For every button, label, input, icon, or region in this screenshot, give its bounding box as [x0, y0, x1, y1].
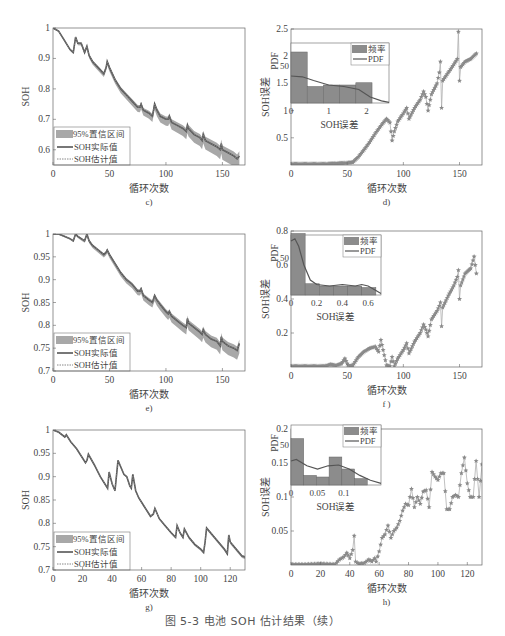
y-tick-label: 1 [283, 106, 288, 116]
y-tick-label: 0.5 [276, 133, 288, 143]
y-tick-label: 0.1 [276, 492, 288, 502]
histogram-bar [304, 475, 317, 485]
chart-panel-d: 0501001500.511.522.5循环次数SOH误差d)01250SOH误… [259, 24, 482, 207]
y-tick-label: 0.4 [276, 294, 288, 304]
svg-text:频率: 频率 [360, 236, 378, 246]
svg-text:95%置信区间: 95%置信区间 [73, 335, 125, 345]
y-tick-label: 0.95 [33, 252, 50, 262]
histogram-bar [323, 85, 339, 103]
svg-text:0: 0 [289, 106, 294, 116]
x-tick-label: 100 [431, 569, 446, 579]
svg-text:SOH误差: SOH误差 [316, 311, 355, 322]
y-axis-label: SOH误差 [259, 77, 271, 117]
svg-text:SOH实际值: SOH实际值 [74, 348, 118, 358]
y-axis-label: SOH [20, 292, 31, 312]
y-tick-label: 0.8 [276, 226, 288, 236]
y-tick-label: 0.05 [271, 526, 288, 536]
panel-label: c) [146, 197, 153, 207]
y-tick-label: 0.75 [33, 542, 50, 552]
x-tick-label: 0 [289, 371, 294, 381]
x-tick-label: 40 [345, 569, 355, 579]
svg-text:50: 50 [280, 440, 290, 450]
svg-text:0: 0 [289, 298, 294, 308]
svg-text:频率: 频率 [360, 426, 378, 436]
svg-text:SOH实际值: SOH实际值 [74, 547, 118, 557]
histogram-bar [291, 234, 305, 296]
x-tick-label: 80 [166, 574, 176, 584]
x-tick-label: 150 [452, 169, 467, 179]
x-tick-label: 60 [374, 569, 384, 579]
x-tick-label: 50 [342, 371, 352, 381]
svg-text:PDF: PDF [360, 436, 376, 446]
chart-panel-h: 0204060801001200.050.10.150.2循环次数SOH误差h)… [259, 424, 485, 607]
svg-text:50: 50 [280, 61, 290, 71]
svg-text:95%置信区间: 95%置信区间 [73, 534, 125, 544]
histogram-bar [355, 479, 368, 485]
svg-text:2: 2 [364, 106, 369, 116]
x-tick-label: 0 [51, 375, 56, 385]
x-axis-label: 循环次数 [367, 582, 407, 594]
y-tick-label: 0.85 [33, 495, 50, 505]
legend: 95%置信区间SOH实际值SOH估计值 [54, 532, 130, 570]
legend: 95%置信区间SOH实际值SOH估计值 [54, 127, 130, 165]
x-tick-label: 100 [194, 574, 209, 584]
x-tick-label: 0 [51, 169, 56, 179]
panel-label: g) [145, 602, 153, 612]
x-tick-label: 150 [452, 371, 467, 381]
svg-text:PDF: PDF [368, 54, 384, 64]
histogram-bar [348, 286, 362, 295]
y-tick-label: 0.6 [38, 145, 50, 155]
chart-panel-g: 95%置信区间SOH实际值SOH估计值0204060801001200.70.7… [20, 425, 245, 612]
svg-text:PDF: PDF [270, 244, 280, 261]
x-tick-label: 100 [396, 169, 411, 179]
y-tick-label: 0.8 [38, 320, 50, 330]
figure-caption: 图 5-3 电池 SOH 估计结果（续） [0, 612, 505, 628]
svg-text:SOH估计值: SOH估计值 [74, 559, 118, 569]
y-tick-label: 2.5 [276, 24, 288, 34]
y-axis-label: SOH [20, 86, 31, 106]
y-tick-label: 0.7 [38, 565, 50, 575]
histogram-bar [291, 439, 304, 485]
y-axis-label: SOH误差 [259, 279, 271, 319]
legend: 95%置信区间SOH实际值SOH估计值 [54, 333, 130, 371]
svg-text:50: 50 [280, 253, 290, 263]
chart-panel-f: 0501001500.20.40.60.8循环次数SOH误差f )00.20.4… [259, 226, 482, 409]
svg-text:0.2: 0.2 [311, 298, 322, 308]
histogram-bar [307, 87, 323, 104]
x-tick-label: 20 [316, 569, 326, 579]
histogram-bar [319, 286, 333, 295]
svg-text:0.4: 0.4 [337, 298, 349, 308]
x-axis-label: 循环次数 [367, 182, 407, 194]
y-tick-label: 0.7 [38, 114, 50, 124]
y-tick-label: 0.75 [33, 343, 50, 353]
y-tick-label: 0.85 [33, 298, 50, 308]
x-tick-label: 20 [78, 574, 88, 584]
panel-label: e) [146, 403, 153, 413]
x-tick-label: 150 [215, 375, 230, 385]
x-axis-label: 循环次数 [129, 587, 169, 599]
x-tick-label: 50 [105, 169, 115, 179]
y-tick-label: 0.8 [38, 84, 50, 94]
y-tick-label: 1 [45, 23, 50, 33]
histogram-bar [316, 477, 329, 485]
x-tick-label: 0 [289, 569, 294, 579]
svg-text:频率: 频率 [368, 44, 386, 54]
svg-text:0: 0 [289, 488, 294, 498]
svg-text:PDF: PDF [360, 246, 376, 256]
x-tick-label: 120 [223, 574, 238, 584]
histogram-bar [329, 457, 342, 485]
x-axis-label: 循环次数 [129, 388, 169, 400]
chart-panel-e: 95%置信区间SOH实际值SOH估计值0501001500.70.750.80.… [20, 229, 245, 413]
histogram-bar [333, 286, 347, 295]
svg-text:SOH估计值: SOH估计值 [74, 360, 118, 370]
svg-text:0.6: 0.6 [363, 298, 375, 308]
x-tick-label: 120 [460, 569, 475, 579]
svg-text:SOH实际值: SOH实际值 [74, 142, 118, 152]
y-tick-label: 0.8 [38, 518, 50, 528]
x-tick-label: 40 [107, 574, 117, 584]
x-tick-label: 150 [215, 169, 230, 179]
inset-histogram: 00.20.40.650SOH误差PDF频率PDF [270, 234, 381, 323]
x-tick-label: 80 [404, 569, 414, 579]
x-tick-label: 50 [342, 169, 352, 179]
svg-text:SOH估计值: SOH估计值 [74, 154, 118, 164]
